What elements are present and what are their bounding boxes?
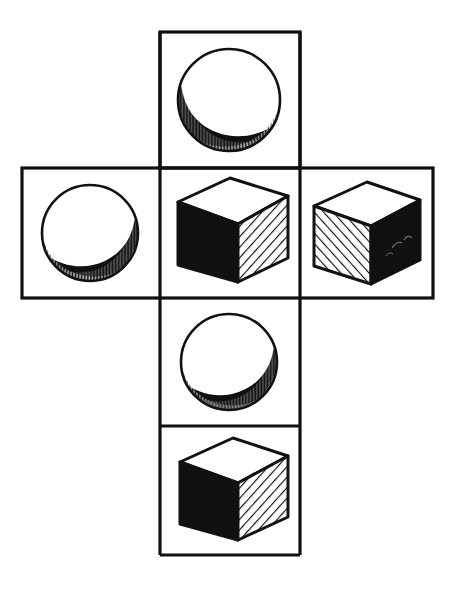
figure-cube-center xyxy=(178,178,288,282)
artboard: Cube net with alternating spheres and cu… xyxy=(0,0,457,590)
figure-cube-right xyxy=(314,182,420,284)
cube-net-drawing xyxy=(0,0,457,590)
figure-cube-bottom xyxy=(180,438,288,540)
